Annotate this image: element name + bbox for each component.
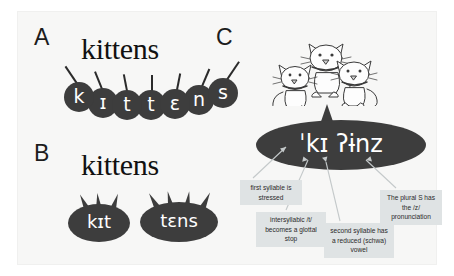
syllable-symbol: tɛns <box>160 212 198 230</box>
phone-symbol: ɪ <box>99 93 106 112</box>
syllable-symbol: kɪt <box>87 213 111 231</box>
figure-canvas: A kittens kɪttɛns B kittens kɪttɛns C <box>18 12 436 264</box>
phone-bubble: ɛ <box>160 89 190 119</box>
phone-bubble: k <box>64 82 94 112</box>
phone-symbol: n <box>193 90 205 109</box>
panel-label-a: A <box>34 26 49 49</box>
panel-b-syllable-bubbles: kɪttɛns <box>68 188 228 248</box>
syllable-bubble: tɛns <box>140 202 218 242</box>
phone-symbol: ɛ <box>170 94 180 113</box>
callout-plural-s-z: The plural S has the /z/ pronunciation <box>380 190 442 225</box>
phone-bubble: t <box>112 90 142 120</box>
panel-label-b: B <box>34 142 49 165</box>
kitten-left <box>273 65 317 106</box>
panel-b-orthographic-word: kittens <box>81 150 159 180</box>
figure-root: A kittens kɪttɛns B kittens kɪttɛns C <box>0 0 454 276</box>
phone-symbol: k <box>73 87 84 106</box>
phone-symbol: t <box>123 95 130 114</box>
callout-reduced-vowel: second syllable has a reduced (schwa) vo… <box>324 223 394 258</box>
three-kittens-illustration <box>268 30 386 106</box>
panel-a-phone-bubbles: kɪttɛns <box>58 68 238 120</box>
syllable-bubble: kɪt <box>68 204 130 242</box>
callout-first-syllable-stressed: first syllable is stressed <box>240 180 302 205</box>
phonetic-transcription: ˈkɪ ʔɨnz <box>256 119 426 169</box>
panel-a-orthographic-word: kittens <box>81 34 159 64</box>
panel-label-c: C <box>216 26 233 49</box>
speech-bubble: ˈkɪ ʔɨnz <box>256 108 426 170</box>
callout-glottal-stop: intersyllabic /t/ becomes a glottal stop <box>256 212 326 247</box>
phone-symbol: s <box>218 83 228 102</box>
phone-symbol: t <box>147 95 154 114</box>
phone-bubble: s <box>208 78 238 108</box>
